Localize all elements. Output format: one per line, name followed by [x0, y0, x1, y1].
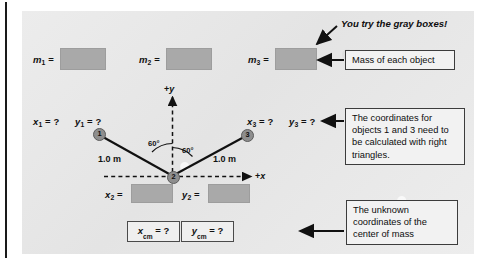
mass-callout-text: Mass of each object — [352, 54, 435, 66]
particle-node-2: 2 — [167, 171, 180, 184]
figure-root: m1 = m2 = m3 = x1 = ? y1 = ? x3 = ? y3 =… — [0, 0, 486, 265]
particle-node-3: 3 — [241, 129, 254, 142]
try-gray-boxes-note: You try the gray boxes! — [341, 18, 447, 29]
x-axis-label: +x — [255, 171, 265, 181]
com-callout-text: The unknown coordinates of the center of… — [353, 205, 427, 239]
y-axis-label: +y — [164, 84, 174, 94]
com-callout-box: The unknown coordinates of the center of… — [346, 200, 458, 245]
coords-callout-box: The coordinates for objects 1 and 3 need… — [345, 108, 465, 165]
mass-callout-box: Mass of each object — [345, 50, 455, 70]
angle-label-left: 60° — [148, 139, 159, 148]
length-label-left: 1.0 m — [98, 154, 121, 164]
particle-node-1: 1 — [93, 128, 106, 141]
note-leader-arrow — [317, 26, 337, 44]
length-label-right: 1.0 m — [213, 154, 236, 164]
angle-label-right: 60° — [182, 146, 193, 155]
coords-callout-text: The coordinates for objects 1 and 3 need… — [352, 113, 449, 160]
